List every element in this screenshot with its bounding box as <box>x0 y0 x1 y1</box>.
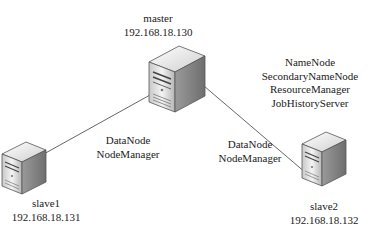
slave1-ip: 192.168.18.131 <box>6 211 86 225</box>
role-nodemanager: NodeManager <box>212 152 288 166</box>
role-datanode: DataNode <box>212 138 288 152</box>
slave1-label: slave1 192.168.18.131 <box>6 197 86 224</box>
slave2-roles: DataNode NodeManager <box>212 138 288 165</box>
role-jobhistoryserver: JobHistoryServer <box>252 97 368 111</box>
slave1-server-icon <box>0 140 50 196</box>
slave2-label: slave2 192.168.18.132 <box>284 200 364 227</box>
slave1-name: slave1 <box>6 197 86 211</box>
master-server-icon <box>145 44 209 114</box>
master-name: master <box>118 12 198 26</box>
slave2-server-icon <box>300 130 350 188</box>
master-ip: 192.168.18.130 <box>118 26 198 40</box>
role-resourcemanager: ResourceManager <box>252 83 368 97</box>
role-namenode: NameNode <box>252 56 368 70</box>
slave2-name: slave2 <box>284 200 364 214</box>
slave1-roles: DataNode NodeManager <box>90 134 166 161</box>
master-label: master 192.168.18.130 <box>118 12 198 39</box>
role-secondarynamenode: SecondaryNameNode <box>252 70 368 84</box>
role-nodemanager: NodeManager <box>90 148 166 162</box>
role-datanode: DataNode <box>90 134 166 148</box>
slave2-ip: 192.168.18.132 <box>284 214 364 228</box>
master-roles: NameNode SecondaryNameNode ResourceManag… <box>252 56 368 110</box>
